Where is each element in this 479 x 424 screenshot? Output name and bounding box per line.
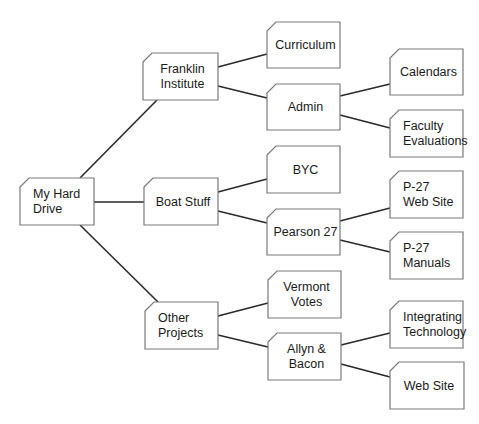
folder-node-boat[interactable]: Boat Stuff [144, 178, 218, 225]
folder-node-website[interactable]: Web Site [390, 362, 464, 409]
connector-root-to-franklin [80, 100, 157, 178]
folder-node-integrating[interactable]: IntegratingTechnology [390, 301, 467, 348]
folder-node-faculty[interactable]: FacultyEvaluations [390, 110, 468, 157]
folder-node-allyn[interactable]: Allyn &Bacon [268, 333, 341, 380]
folder-label: Admin [288, 100, 323, 114]
connector-lines [80, 54, 390, 377]
folder-label: Vermont [283, 280, 330, 294]
connector-pearson-to-p27web [340, 208, 390, 221]
folder-label: Projects [158, 326, 203, 340]
folder-label: P-27 [403, 241, 429, 255]
folder-node-byc[interactable]: BYC [267, 146, 340, 193]
folder-label: Calendars [400, 65, 457, 79]
folder-nodes: My HardDriveFranklinInstituteBoat StuffO… [20, 22, 468, 409]
folder-label: Votes [291, 295, 322, 309]
folder-label: Drive [33, 202, 62, 216]
folder-node-admin[interactable]: Admin [267, 84, 340, 130]
folder-node-pearson[interactable]: Pearson 27 [267, 209, 340, 255]
folder-label: Institute [161, 77, 205, 91]
folder-node-p27manuals[interactable]: P-27Manuals [390, 232, 463, 279]
folder-label: Integrating [403, 310, 462, 324]
folder-label: Evaluations [403, 134, 468, 148]
connector-allyn-to-website [341, 364, 390, 377]
folder-node-other[interactable]: OtherProjects [145, 302, 218, 349]
connector-other-to-vermont [218, 303, 268, 316]
folder-label: Boat Stuff [156, 195, 211, 209]
folder-label: Curriculum [275, 38, 335, 52]
folder-node-calendars[interactable]: Calendars [390, 49, 463, 95]
folder-label: BYC [293, 163, 319, 177]
folder-label: Other [158, 311, 189, 325]
connector-franklin-to-curriculum [218, 54, 267, 67]
folder-label: Allyn & [287, 342, 327, 356]
connector-root-to-other [80, 225, 158, 302]
folder-label: My Hard [33, 187, 80, 201]
folder-label: Franklin [160, 62, 205, 76]
folder-label: Web Site [403, 195, 454, 209]
folder-label: P-27 [403, 180, 429, 194]
connector-other-to-allyn [218, 335, 268, 347]
connector-franklin-to-admin [218, 86, 267, 98]
folder-node-franklin[interactable]: FranklinInstitute [143, 53, 218, 100]
connector-admin-to-calendars [340, 84, 390, 96]
folder-tree-diagram: My HardDriveFranklinInstituteBoat StuffO… [0, 0, 479, 424]
folder-node-p27web[interactable]: P-27Web Site [390, 171, 463, 218]
connector-pearson-to-p27manuals [340, 240, 390, 252]
folder-label: Manuals [403, 256, 450, 270]
folder-node-vermont[interactable]: VermontVotes [268, 271, 341, 318]
connector-allyn-to-integrating [341, 333, 390, 345]
connector-admin-to-faculty [340, 115, 390, 128]
connector-boat-to-pearson [218, 211, 267, 223]
folder-node-root[interactable]: My HardDrive [20, 178, 94, 225]
folder-node-curriculum[interactable]: Curriculum [267, 22, 340, 68]
connector-boat-to-byc [218, 179, 267, 192]
folder-label: Web Site [404, 379, 455, 393]
folder-label: Pearson 27 [274, 225, 338, 239]
folder-label: Faculty [403, 119, 444, 133]
folder-label: Bacon [289, 357, 324, 371]
folder-label: Technology [403, 325, 467, 339]
